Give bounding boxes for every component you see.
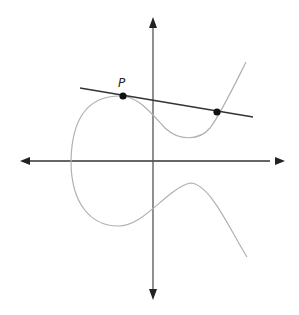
- y-axis-bottom-arrow-icon: [149, 289, 157, 300]
- y-axis-top-arrow-icon: [149, 17, 157, 28]
- point-intersection: [213, 108, 220, 115]
- elliptic-curve-diagram: P: [0, 0, 299, 315]
- x-axis-right-arrow-icon: [275, 157, 285, 165]
- point-p: [119, 92, 126, 99]
- x-axis-left-arrow-icon: [20, 157, 30, 165]
- axes: [20, 17, 285, 300]
- tangent-line: [80, 88, 253, 117]
- point-p-label: P: [118, 76, 126, 90]
